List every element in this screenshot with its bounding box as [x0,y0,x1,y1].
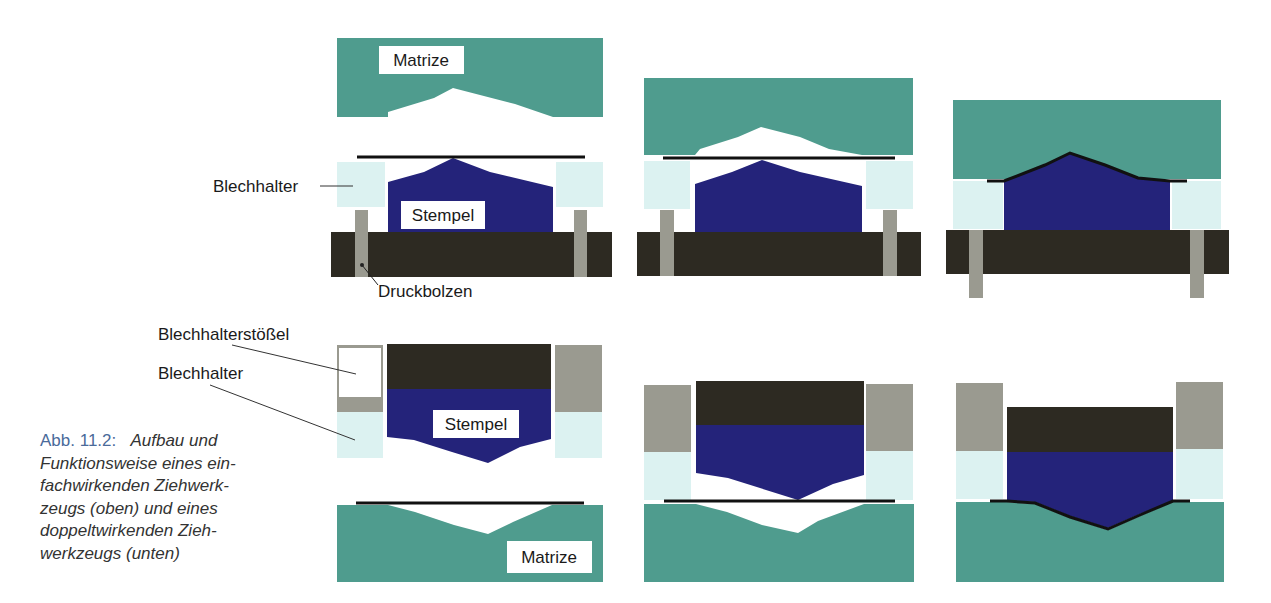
stempel-label-bottom: Stempel [445,415,507,434]
base-plate [637,232,921,276]
druckbolzen-left [660,210,674,276]
stempel-holder [1007,407,1173,452]
stempel-bottom-2 [696,425,864,500]
druckbolzen-left [355,210,368,277]
stoessel-hollow [339,348,381,397]
blechhalterstoessel-right [555,345,602,412]
blechhalter-right [555,412,602,458]
matrize-label-bottom: Matrize [521,548,577,567]
blechhalter-left [337,162,385,207]
top-stage-3 [946,100,1229,298]
blechhalter-left [644,161,690,209]
druckbolzen-right [883,210,897,276]
base-plate [946,230,1229,274]
matrize-bottom-2 [644,504,914,582]
stempel-top-2 [695,160,862,232]
caption-line: Funktionsweise eines ein- [40,454,236,473]
matrize-label: Matrize [393,51,449,70]
blechhalter-right [556,162,603,207]
blechhalter-left [956,451,1003,499]
caption-line: zeugs (oben) und eines [40,499,218,518]
blechhalter-right [866,161,913,209]
top-stage-2 [637,78,921,276]
stempel-label: Stempel [412,206,474,225]
druckbolzen-right [574,210,587,277]
blechhalterstoessel-left [956,383,1003,451]
matrize-top-1 [337,38,603,117]
blechhalterstoessel-left [644,385,691,452]
caption-line: werkzeugs (unten) [40,544,180,563]
matrize-top-2 [644,78,913,155]
druckbolzen-right [1190,230,1204,298]
blechhalter-right [1172,181,1221,229]
top-stage-1: Matrize Stempel Blechhalter Druckbolzen [213,38,612,301]
blechhalter-left [644,452,691,500]
base-plate [331,232,612,277]
druckbolzen-left [969,230,983,298]
druckbolzen-leader-dot [360,263,364,267]
figure-caption: Abb. 11.2: Aufbau und Funktionsweise ein… [40,430,300,565]
blechhalter-right [1176,449,1223,499]
blechhalterstoessel-right [1176,382,1223,449]
stempel-holder [387,344,551,389]
caption-line: fachwirkenden Ziehwerk- [40,476,229,495]
bottom-stage-3 [956,382,1224,582]
caption-number: Abb. 11.2: [40,431,116,450]
bottom-stage-2 [644,381,914,582]
blechhalterstoessel-label: Blechhalterstößel [158,325,289,344]
druckbolzen-label: Druckbolzen [378,282,473,301]
blechhalter-right [866,451,913,500]
caption-line: doppeltwirkenden Zieh- [40,521,217,540]
blechhalter-label: Blechhalter [213,177,298,196]
blechhalter-label-bottom: Blechhalter [158,364,243,383]
blechhalter-left [337,412,383,458]
blechhalter-left [953,181,1003,229]
caption-line: Aufbau und [130,431,217,450]
stempel-holder [696,381,864,425]
blechhalterstoessel-right [866,384,913,451]
